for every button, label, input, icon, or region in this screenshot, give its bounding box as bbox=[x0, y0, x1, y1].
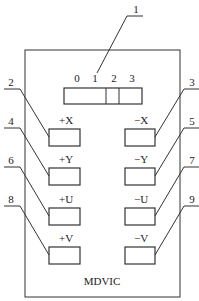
button-label: −U bbox=[134, 193, 148, 205]
callout-number: 2 bbox=[8, 76, 14, 88]
callout-9: 9 bbox=[155, 193, 199, 255]
callout-number: 5 bbox=[189, 115, 195, 127]
button-minus-u[interactable]: −U bbox=[125, 193, 155, 225]
leader-line bbox=[20, 206, 49, 255]
button-minus-y[interactable]: −Y bbox=[125, 153, 155, 185]
button-box[interactable] bbox=[125, 129, 155, 146]
button-box[interactable] bbox=[125, 168, 155, 185]
button-label: −V bbox=[134, 232, 148, 244]
button-box[interactable] bbox=[49, 208, 80, 225]
button-label: +X bbox=[59, 114, 73, 126]
button-plus-x[interactable]: +X bbox=[49, 114, 80, 146]
button-box[interactable] bbox=[49, 168, 80, 185]
button-label: +U bbox=[59, 193, 73, 205]
button-minus-v[interactable]: −V bbox=[125, 232, 155, 264]
leader-line bbox=[20, 89, 49, 137]
callout-number: 1 bbox=[133, 3, 139, 15]
mdvic-panel-diagram: 0 1 2 3 1 +X +Y +U +V −X −Y −U −V bbox=[0, 0, 199, 301]
callout-8: 8 bbox=[4, 193, 49, 255]
callout-number: 4 bbox=[8, 115, 14, 127]
digit-label-2: 2 bbox=[111, 72, 117, 84]
display-window: 0 1 2 3 bbox=[64, 72, 142, 104]
button-minus-x[interactable]: −X bbox=[125, 114, 155, 146]
digit-label-3: 3 bbox=[129, 72, 135, 84]
button-box[interactable] bbox=[49, 247, 80, 264]
digit-label-1: 1 bbox=[92, 72, 98, 84]
button-label: −X bbox=[134, 114, 148, 126]
button-box[interactable] bbox=[125, 247, 155, 264]
button-label: +Y bbox=[59, 153, 73, 165]
button-label: +V bbox=[59, 232, 73, 244]
display-box bbox=[64, 88, 142, 104]
button-box[interactable] bbox=[125, 208, 155, 225]
callout-6: 6 bbox=[4, 154, 49, 216]
callout-1: 1 bbox=[97, 3, 143, 73]
button-plus-v[interactable]: +V bbox=[49, 232, 80, 264]
digit-label-0: 0 bbox=[74, 72, 80, 84]
callout-7: 7 bbox=[155, 154, 199, 216]
button-label: −Y bbox=[134, 153, 148, 165]
callout-number: 8 bbox=[8, 193, 14, 205]
leader-line bbox=[97, 16, 127, 73]
button-plus-y[interactable]: +Y bbox=[49, 153, 80, 185]
leader-line bbox=[20, 128, 49, 176]
callout-number: 9 bbox=[189, 193, 195, 205]
button-box[interactable] bbox=[49, 129, 80, 146]
button-plus-u[interactable]: +U bbox=[49, 193, 80, 225]
device-title: MDVIC bbox=[84, 275, 121, 287]
callout-number: 3 bbox=[189, 76, 195, 88]
callout-number: 6 bbox=[8, 154, 14, 166]
leader-line bbox=[20, 167, 49, 216]
callout-number: 7 bbox=[189, 154, 195, 166]
